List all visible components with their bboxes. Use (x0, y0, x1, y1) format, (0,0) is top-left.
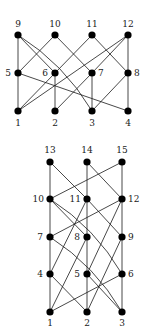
node-7 (46, 233, 53, 240)
node-14 (83, 158, 90, 165)
edge-15-10 (50, 162, 122, 199)
node-label-10: 10 (33, 194, 45, 204)
node-1 (46, 308, 53, 315)
node-label-4: 4 (37, 269, 43, 279)
node-label-12: 12 (128, 194, 139, 204)
node-12 (118, 195, 125, 202)
node-9 (14, 31, 21, 38)
edge-7-2 (55, 73, 92, 111)
node-label-8: 8 (134, 68, 140, 78)
edge-6-1 (50, 274, 122, 312)
top-graph: 123456789101112 (5, 19, 140, 128)
node-11 (83, 195, 90, 202)
node-label-2: 2 (52, 118, 58, 128)
edge-6-1 (18, 73, 55, 111)
node-15 (118, 158, 125, 165)
node-label-5: 5 (74, 269, 80, 279)
node-10 (51, 31, 58, 38)
node-label-4: 4 (125, 118, 131, 128)
node-label-9: 9 (15, 19, 21, 29)
node-2 (51, 107, 58, 114)
node-label-7: 7 (37, 232, 43, 242)
edge-8-3 (92, 73, 128, 111)
node-label-13: 13 (44, 145, 56, 155)
node-label-3: 3 (89, 118, 95, 128)
edge-12-5 (87, 199, 122, 274)
node-3 (118, 308, 125, 315)
node-label-8: 8 (74, 232, 80, 242)
node-label-11: 11 (86, 19, 97, 29)
node-13 (46, 158, 53, 165)
node-label-1: 1 (47, 318, 53, 328)
node-4 (46, 270, 53, 277)
node-5 (83, 270, 90, 277)
node-label-6: 6 (42, 68, 48, 78)
node-label-3: 3 (119, 318, 125, 328)
node-7 (88, 69, 95, 76)
node-label-9: 9 (128, 232, 134, 242)
node-label-11: 11 (70, 194, 81, 204)
node-1 (14, 107, 21, 114)
edge-11-9 (87, 199, 122, 237)
node-11 (88, 31, 95, 38)
node-label-6: 6 (128, 269, 134, 279)
node-label-2: 2 (84, 318, 90, 328)
edge-11-4 (50, 199, 87, 274)
edge-14-12 (87, 162, 122, 199)
node-12 (124, 31, 131, 38)
edge-4-2 (50, 274, 87, 312)
edge-10-8 (50, 199, 87, 237)
node-3 (88, 107, 95, 114)
node-9 (118, 233, 125, 240)
node-5 (14, 69, 21, 76)
node-8 (83, 233, 90, 240)
node-label-10: 10 (49, 19, 61, 29)
node-8 (124, 69, 131, 76)
node-label-5: 5 (5, 68, 11, 78)
edge-5-3 (87, 274, 122, 312)
node-10 (46, 195, 53, 202)
bottom-graph: 123456789101112131415 (33, 145, 140, 328)
node-label-15: 15 (116, 145, 128, 155)
edge-12-7 (50, 199, 122, 237)
edge-8-1 (50, 237, 87, 312)
node-label-14: 14 (81, 145, 93, 155)
node-4 (124, 107, 131, 114)
graph-diagram-canvas: 123456789101112 123456789101112131415 (0, 0, 148, 328)
node-label-7: 7 (98, 68, 104, 78)
node-label-1: 1 (15, 118, 21, 128)
edge-13-11 (50, 162, 87, 199)
node-6 (51, 69, 58, 76)
node-6 (118, 270, 125, 277)
node-label-12: 12 (122, 19, 133, 29)
node-2 (83, 308, 90, 315)
